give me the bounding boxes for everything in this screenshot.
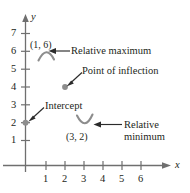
x-tick-label-1: 1 bbox=[43, 173, 48, 184]
y-tick-label-5: 5 bbox=[11, 63, 16, 74]
graph-figure bbox=[0, 0, 190, 193]
x-tick-label-6: 6 bbox=[138, 173, 143, 184]
point-of-inflection-leader bbox=[67, 73, 83, 87]
y-axis-label: y bbox=[31, 11, 36, 22]
x-tick-label-5: 5 bbox=[119, 173, 124, 184]
annotation-point-of-inflection: Point of inflection bbox=[82, 65, 158, 77]
y-tick-label-7: 7 bbox=[11, 27, 16, 38]
y-tick-label-2: 2 bbox=[11, 117, 16, 128]
y-tick-label-6: 6 bbox=[11, 45, 16, 56]
annotation-relative-minimum-line2: minimum bbox=[124, 131, 165, 143]
relative-minimum-leader bbox=[94, 122, 123, 128]
intercept-dot bbox=[23, 120, 29, 126]
intercept-leader bbox=[28, 108, 44, 122]
x-tick-label-4: 4 bbox=[100, 173, 105, 184]
x-tick-label-2: 2 bbox=[62, 173, 67, 184]
relative-minimum-arc bbox=[77, 115, 93, 124]
x-axis-label: x bbox=[175, 159, 180, 170]
y-tick-label-3: 3 bbox=[11, 99, 16, 110]
point-of-inflection-dot bbox=[62, 84, 68, 90]
y-axis-arrow-icon bbox=[22, 14, 29, 22]
x-tick-label-3: 3 bbox=[81, 173, 86, 184]
annotation-relative-maximum: Relative maximum bbox=[71, 45, 151, 57]
coordinate-label-max: (1, 6) bbox=[30, 39, 52, 50]
annotation-intercept: Intercept bbox=[45, 100, 82, 112]
x-axis-arrow-icon bbox=[162, 162, 171, 169]
relative-maximum-arc bbox=[39, 52, 55, 60]
y-tick-label-4: 4 bbox=[11, 81, 16, 92]
annotation-relative-minimum-line1: Relative bbox=[124, 119, 159, 131]
y-tick-label-1: 1 bbox=[11, 134, 16, 145]
coordinate-label-min: (3, 2) bbox=[66, 131, 88, 142]
